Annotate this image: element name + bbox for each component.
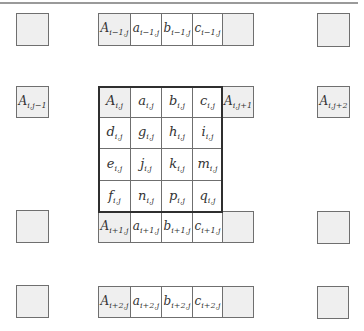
cell-c-i-minus-1: ci−1,j — [192, 13, 223, 46]
empty-block-top-left — [16, 13, 49, 46]
main-cell-i: ii,j — [192, 117, 223, 149]
main-cell-j: ji,j — [130, 148, 162, 181]
top-rule — [0, 2, 358, 4]
main-cell-m: mi,j — [192, 148, 223, 181]
main-cell-p: pi,j — [161, 180, 193, 213]
cell-empty-i-minus-1 — [222, 13, 254, 46]
cell-a-i-minus-1: ai−1,j — [130, 13, 162, 46]
empty-block-top-right — [317, 13, 350, 47]
main-cell-n: ni,j — [130, 180, 162, 213]
cell-A-i-minus-1: Ai−1,j — [98, 13, 131, 46]
cell-b-i-plus-2: bi+2,j — [161, 286, 193, 318]
empty-block-right-row-i-plus-2 — [317, 286, 349, 319]
empty-block-left-row-i-plus-1 — [16, 210, 49, 243]
block-label: Ai,j−1 — [18, 95, 46, 110]
cell-empty-i-plus-1 — [222, 211, 254, 243]
neighbor-block-right: Ai,j+1 — [222, 86, 254, 118]
main-cell-g: gi,j — [130, 117, 162, 149]
main-cell-b: bi,j — [161, 86, 193, 118]
main-cell-c: ci,j — [192, 86, 223, 118]
main-cell-d: di,j — [98, 117, 131, 149]
main-cell-a: ai,j — [130, 86, 162, 118]
cell-c-i-plus-2: ci+2,j — [192, 286, 223, 318]
main-cell-A: Ai,j — [98, 86, 131, 118]
empty-block-left-row-i-plus-2 — [16, 285, 49, 318]
cell-c-i-plus-1: ci+1,j — [192, 211, 223, 243]
main-cell-e: ei,j — [98, 148, 131, 181]
empty-block-right-row-i-plus-1 — [317, 211, 350, 244]
neighbor-block-left: Ai,j−1 — [16, 86, 49, 118]
block-label: Ai,j+2 — [319, 95, 347, 110]
cell-empty-i-plus-2 — [222, 286, 254, 318]
main-cell-f: fi,j — [98, 180, 131, 213]
cell-a-i-plus-2: ai+2,j — [130, 286, 162, 318]
cell-b-i-plus-1: bi+1,j — [161, 211, 193, 243]
cell-A-i-plus-1: Ai+1,j — [98, 211, 131, 243]
main-cell-h: hi,j — [161, 117, 193, 149]
cell-A-i-plus-2: Ai+2,j — [98, 286, 131, 318]
main-cell-q: qi,j — [192, 180, 223, 213]
neighbor-block-right-far: Ai,j+2 — [317, 86, 350, 118]
cell-b-i-minus-1: bi−1,j — [161, 13, 193, 46]
main-cell-k: ki,j — [161, 148, 193, 181]
cell-a-i-plus-1: ai+1,j — [130, 211, 162, 243]
